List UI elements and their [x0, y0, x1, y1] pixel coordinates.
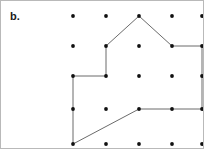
grid-dot — [137, 107, 141, 111]
polygon-layer — [73, 16, 202, 144]
grid-dot — [137, 14, 141, 18]
house-shaped-polygon — [73, 16, 202, 144]
grid-dot — [104, 107, 108, 111]
grid-dot — [104, 142, 108, 146]
grid-dot — [200, 142, 204, 146]
grid-dot — [137, 74, 141, 78]
grid-dot — [170, 74, 174, 78]
grid-dot — [104, 14, 108, 18]
grid-dot — [71, 107, 75, 111]
dot-grid-figure: b. — [0, 0, 204, 149]
grid-dot — [170, 142, 174, 146]
grid-dot — [170, 107, 174, 111]
grid-dot — [71, 44, 75, 48]
grid-dot — [71, 14, 75, 18]
grid-dot — [200, 107, 204, 111]
grid-dot — [104, 44, 108, 48]
grid-dot — [104, 74, 108, 78]
grid-dot — [170, 14, 174, 18]
grid-dot — [137, 44, 141, 48]
grid-dot — [170, 44, 174, 48]
grid-dot — [137, 142, 141, 146]
figure-canvas — [1, 1, 204, 149]
grid-dot — [71, 142, 75, 146]
grid-dot — [200, 74, 204, 78]
grid-dot — [200, 14, 204, 18]
grid-dot — [200, 44, 204, 48]
grid-dot — [71, 74, 75, 78]
dot-grid-layer — [71, 14, 204, 146]
